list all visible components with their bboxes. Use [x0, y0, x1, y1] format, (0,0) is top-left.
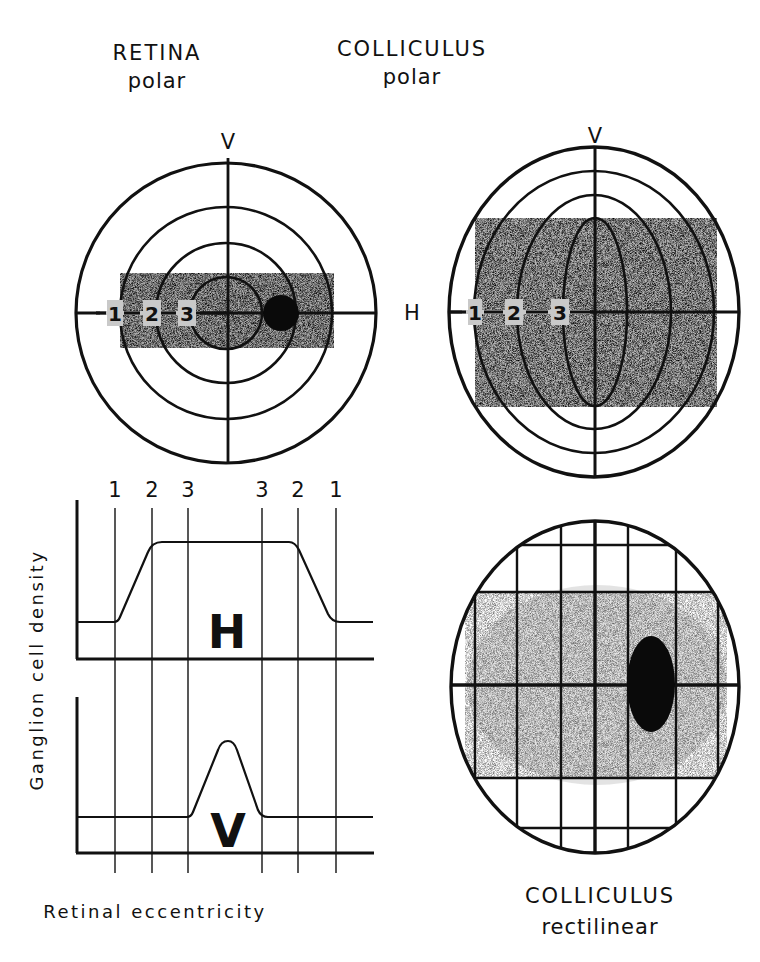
tick-label-1-left: 1: [108, 478, 121, 502]
retina-black-spot: [263, 295, 299, 331]
retina-polar-diagram: RETINA polar V 1 2 3: [76, 41, 376, 463]
retina-ecc-1: 1: [108, 302, 122, 326]
density-graphs: Ganglion cell density Retinal eccentrici…: [26, 478, 374, 922]
tick-label-2-left: 2: [145, 478, 158, 502]
retina-ecc-2: 2: [145, 302, 159, 326]
tick-label-3-left: 3: [181, 478, 194, 502]
tick-label-3-right: 3: [255, 478, 268, 502]
colliculus-rectilinear-diagram: COLLICULUS rectilinear: [448, 520, 742, 939]
retina-title: RETINA: [113, 41, 202, 65]
colliculus-rectilinear-subtitle: rectilinear: [541, 915, 658, 939]
colliculus-polar-title: COLLICULUS: [337, 37, 487, 61]
tick-label-2-right: 2: [291, 478, 304, 502]
y-axis-label: Ganglion cell density: [26, 549, 47, 790]
colliculus-polar-diagram: COLLICULUS polar V H 1 2 3: [337, 37, 740, 478]
retina-ecc-3: 3: [180, 302, 194, 326]
v-panel-label: V: [210, 804, 246, 858]
colliculus-v-label: V: [588, 124, 603, 148]
retina-subtitle: polar: [128, 69, 187, 93]
h-panel-label: H: [208, 605, 247, 659]
colliculus-h-label: H: [404, 301, 420, 325]
rectilinear-black-spot: [627, 636, 675, 732]
colliculus-rectilinear-title: COLLICULUS: [525, 884, 675, 908]
tick-label-1-right: 1: [329, 478, 342, 502]
retina-v-label: V: [221, 130, 236, 154]
x-axis-label: Retinal eccentricity: [43, 901, 266, 922]
colliculus-ecc-3: 3: [553, 301, 567, 325]
colliculus-polar-subtitle: polar: [383, 65, 442, 89]
colliculus-ecc-1: 1: [468, 301, 482, 325]
colliculus-ecc-2: 2: [507, 301, 521, 325]
figure-canvas: RETINA polar V 1 2 3 COLLICULUS polar V …: [0, 0, 760, 962]
